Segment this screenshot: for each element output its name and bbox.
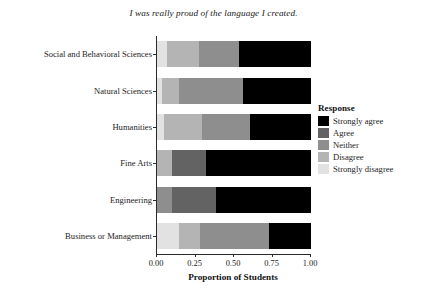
bar-segment: [269, 223, 311, 249]
bar-row: [157, 41, 311, 67]
stacked-bar-chart: I was really proud of the language I cre…: [0, 0, 427, 296]
bar-segment: [239, 41, 311, 67]
legend-item[interactable]: Neither: [318, 139, 426, 151]
bar-segment: [164, 114, 202, 140]
y-axis-tick-label: Engineering: [2, 195, 152, 205]
x-axis-tick-mark: [156, 254, 157, 257]
bar-row: [157, 78, 311, 104]
bar-segment: [199, 41, 239, 67]
bar-segment: [172, 150, 206, 176]
legend-swatch-icon: [318, 140, 329, 150]
bar-segment: [172, 187, 215, 213]
bar-segment: [162, 78, 179, 104]
legend-label: Neither: [333, 140, 359, 151]
legend-swatch-icon: [318, 128, 329, 138]
x-axis-tick-label: 0.25: [175, 259, 215, 268]
x-axis-tick-mark: [195, 254, 196, 257]
y-axis-tick-label: Humanities: [2, 122, 152, 132]
x-axis-tick-mark: [233, 254, 234, 257]
x-axis-tick-label: 0.00: [136, 259, 176, 268]
legend-label: Disagree: [333, 152, 364, 163]
bar-segment: [250, 114, 311, 140]
x-axis-tick-label: 0.75: [252, 259, 292, 268]
bar-segment: [167, 41, 199, 67]
bar-segment: [243, 78, 311, 104]
bar-segment: [216, 187, 311, 213]
y-axis-tick-label: Fine Arts: [2, 158, 152, 168]
legend-label: Strongly agree: [333, 116, 383, 127]
bar-segment: [157, 41, 167, 67]
bar-segment: [157, 150, 172, 176]
legend-label: Strongly disagree: [333, 164, 393, 175]
y-axis-labels: Social and Behavioral SciencesNatural Sc…: [0, 36, 152, 254]
legend-swatch-icon: [318, 152, 329, 162]
bar-segment: [202, 114, 250, 140]
y-axis-tick-mark: [153, 91, 156, 92]
bar-row: [157, 223, 311, 249]
bar-row: [157, 150, 311, 176]
y-axis-tick-label: Natural Sciences: [2, 86, 152, 96]
y-axis-tick-mark: [153, 236, 156, 237]
legend-label: Agree: [333, 128, 354, 139]
bar-segment: [200, 223, 269, 249]
bar-segment: [206, 150, 311, 176]
y-axis-tick-mark: [153, 54, 156, 55]
x-axis-tick-label: 0.50: [213, 259, 253, 268]
y-axis-tick-label: Business or Management: [2, 231, 152, 241]
y-axis-tick-label: Social and Behavioral Sciences: [2, 49, 152, 59]
x-axis-title: Proportion of Students: [156, 272, 310, 282]
bar-segment: [157, 187, 172, 213]
bar-segment: [157, 114, 164, 140]
bar-segment: [179, 223, 201, 249]
legend-item[interactable]: Strongly agree: [318, 115, 426, 127]
chart-legend: Response Strongly agreeAgreeNeitherDisag…: [318, 103, 426, 175]
x-axis-tick-mark: [272, 254, 273, 257]
legend-item[interactable]: Disagree: [318, 151, 426, 163]
legend-swatch-icon: [318, 164, 329, 174]
legend-items: Strongly agreeAgreeNeitherDisagreeStrong…: [318, 115, 426, 175]
legend-item[interactable]: Strongly disagree: [318, 163, 426, 175]
bar-segment: [157, 223, 179, 249]
x-axis-tick-label: 1.00: [290, 259, 330, 268]
legend-swatch-icon: [318, 116, 329, 126]
y-axis-tick-mark: [153, 127, 156, 128]
legend-item[interactable]: Agree: [318, 127, 426, 139]
x-axis-tick-mark: [310, 254, 311, 257]
y-axis-tick-mark: [153, 163, 156, 164]
plot-area: [156, 36, 311, 255]
bar-segment: [179, 78, 244, 104]
bar-row: [157, 187, 311, 213]
legend-title: Response: [318, 103, 426, 113]
y-axis-tick-mark: [153, 200, 156, 201]
bar-row: [157, 114, 311, 140]
chart-title: I was really proud of the language I cre…: [0, 8, 427, 18]
